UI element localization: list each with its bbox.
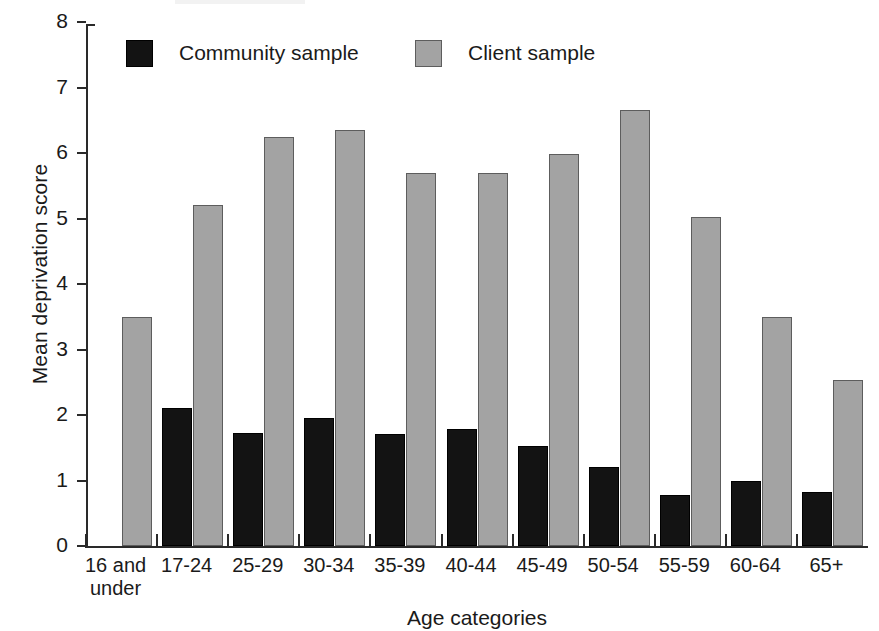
y-axis-tick-5 [77,218,86,220]
bar-community-4 [375,434,405,546]
y-axis-tick-label-4: 4 [34,272,68,293]
y-axis-tick-label-1: 1 [34,469,68,490]
x-axis-category-label-1: 17-24 [151,554,222,577]
y-axis-tick-label-7: 7 [34,76,68,97]
chart-legend: Community sample Client sample [86,37,868,71]
bar-client-1 [193,205,223,546]
x-axis-category-label-5: 40-44 [435,554,506,577]
y-axis-tick-4 [77,283,86,285]
x-axis-tick-6 [512,534,514,548]
bar-community-10 [802,492,832,546]
bar-community-6 [518,446,548,546]
scan-artifact [175,0,305,4]
legend-entry-community-sample: Community sample [126,37,359,69]
y-axis-tick-label-8: 8 [34,10,68,31]
bar-community-5 [447,429,477,546]
x-axis-tick-3 [298,534,300,548]
y-axis-tick-6 [77,152,86,154]
x-axis-title: Age categories [86,606,868,630]
x-axis-tick-10 [796,534,798,548]
bar-chart-figure: Mean deprivation score 012345678 16 andu… [0,0,879,631]
bar-client-4 [406,173,436,546]
y-axis-tick-2 [77,414,86,416]
x-axis-tick-9 [725,534,727,548]
x-axis-category-label-0: 16 andunder [80,554,151,600]
x-axis-tick-1 [156,534,158,548]
y-axis-line [86,24,88,548]
bar-client-6 [549,154,579,546]
x-axis-tick-0 [85,534,87,548]
x-axis-line [86,546,868,548]
y-axis-tick-7 [77,87,86,89]
bar-client-3 [335,130,365,546]
bar-community-8 [660,495,690,546]
bar-client-5 [478,173,508,546]
x-axis-tick-4 [369,534,371,548]
x-axis-category-label-9: 60-64 [720,554,791,577]
y-axis-top-cap [86,24,95,26]
bar-community-9 [731,481,761,547]
x-axis-tick-2 [227,534,229,548]
legend-label-community-sample: Community sample [179,41,359,65]
x-axis-tick-8 [654,534,656,548]
legend-swatch-community-sample [126,40,153,67]
bar-client-10 [833,380,863,546]
x-axis-category-label-2: 25-29 [222,554,293,577]
bar-client-8 [691,217,721,546]
x-axis-category-label-3: 30-34 [293,554,364,577]
x-axis-category-label-8: 55-59 [649,554,720,577]
bar-community-7 [589,467,619,546]
y-axis-tick-label-3: 3 [34,338,68,359]
legend-entry-client-sample: Client sample [415,37,595,69]
y-axis-tick-3 [77,349,86,351]
x-axis-tick-5 [441,534,443,548]
y-axis-tick-label-0: 0 [34,534,68,555]
bar-client-2 [264,137,294,546]
x-axis-category-label-10: 65+ [791,554,862,577]
bar-community-1 [162,408,192,546]
plot-area: 012345678 16 andunder17-2425-2930-3435-3… [86,24,868,548]
y-axis-tick-1 [77,480,86,482]
x-axis-category-label-4: 35-39 [364,554,435,577]
bar-client-7 [620,110,650,546]
x-axis-category-label-7: 50-54 [578,554,649,577]
y-axis-tick-label-2: 2 [34,403,68,424]
x-axis-tick-7 [583,534,585,548]
bar-community-3 [304,418,334,546]
y-axis-tick-label-6: 6 [34,141,68,162]
y-axis-tick-8 [77,21,86,23]
y-axis-tick-label-5: 5 [34,207,68,228]
legend-swatch-client-sample [415,40,442,67]
x-axis-category-label-6: 45-49 [507,554,578,577]
legend-label-client-sample: Client sample [468,41,595,65]
bar-community-2 [233,433,263,546]
bar-client-0 [122,317,152,546]
bar-client-9 [762,317,792,546]
